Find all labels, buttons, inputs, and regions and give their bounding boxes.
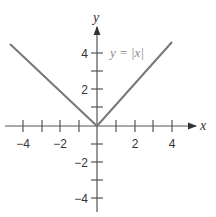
- chart: −4 −2 2 4 4 2 −2 −4 x y y = |x|: [0, 0, 216, 217]
- x-tick-label: 4: [169, 137, 176, 151]
- y-tick-label: 2: [81, 83, 88, 97]
- x-tick-label: 2: [132, 137, 139, 151]
- y-tick-label: −4: [74, 192, 88, 206]
- abs-curve: [10, 42, 172, 126]
- y-axis-label: y: [91, 10, 100, 25]
- y-tick-label: −2: [74, 156, 88, 170]
- y-tick-label: 4: [81, 47, 88, 61]
- x-tick-label: −4: [16, 137, 30, 151]
- x-tick-label: −2: [53, 137, 67, 151]
- curve-annotation: y = |x|: [108, 45, 144, 60]
- x-axis-label: x: [199, 118, 207, 133]
